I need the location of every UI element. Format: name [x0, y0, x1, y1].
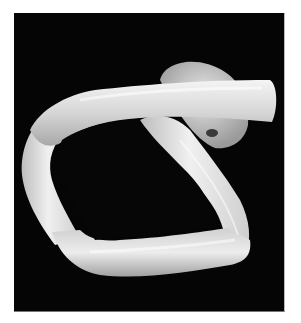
twisted-loop-photo — [0, 0, 301, 323]
dark-spot — [206, 129, 218, 137]
bottom-strand — [52, 228, 250, 277]
